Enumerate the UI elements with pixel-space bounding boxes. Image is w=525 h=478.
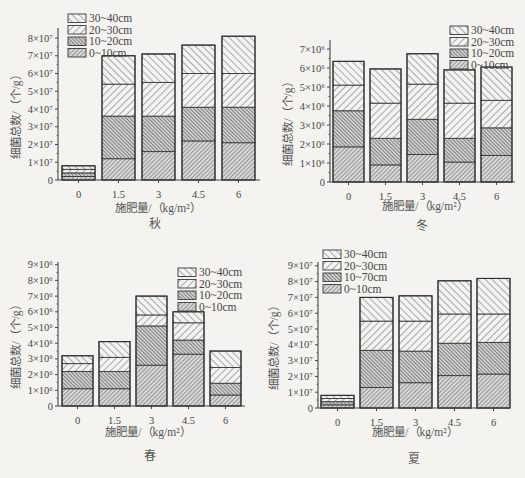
bar-segment <box>210 368 241 384</box>
bar-segment <box>370 138 401 165</box>
bar-segment <box>62 371 93 388</box>
legend-label: 20~30cm <box>344 260 387 272</box>
stacked-bar <box>62 166 95 180</box>
bar-segment <box>102 116 135 159</box>
y-tick-label: 4×10⁶ <box>300 101 326 112</box>
bar-segment <box>477 314 510 342</box>
x-tick-label: 3 <box>149 415 154 426</box>
stacked-bar <box>99 342 130 406</box>
bar-segment <box>222 107 255 143</box>
chart-panel-夏: 01.534.5601×10⁷2×10⁷3×10⁷4×10⁷5×10⁷6×10⁷… <box>267 248 510 466</box>
y-tick-label: 5×10⁶ <box>300 82 326 93</box>
x-axis-title: 施肥量/（kg/m²） <box>105 426 190 439</box>
x-axis-title: 施肥量/（kg/m²） <box>382 200 467 213</box>
panel-caption: 冬 <box>416 218 428 233</box>
bar-segment <box>481 155 512 182</box>
bar-segment <box>62 364 93 372</box>
legend-swatch <box>68 26 86 35</box>
bar-segment <box>438 343 471 375</box>
stacked-bar <box>136 296 167 406</box>
bar-segment <box>444 162 475 182</box>
x-tick-label: 1.5 <box>112 189 125 200</box>
legend-label: 10~20cm <box>89 35 132 47</box>
y-tick-label: 8×10⁷ <box>288 276 314 287</box>
legend: 30~40cm20~30cm10~20cm0~10cm <box>68 12 132 59</box>
bar-segment <box>102 159 135 180</box>
bar-segment <box>142 54 175 82</box>
bar-segment <box>333 111 364 147</box>
bar-segment <box>444 103 475 138</box>
bar-segment <box>222 143 255 180</box>
x-tick-label: 0 <box>76 189 81 200</box>
bar-segment <box>62 356 93 364</box>
bar-segment <box>407 119 438 154</box>
y-tick-label: 6×10⁶ <box>28 306 54 317</box>
bar-segment <box>182 141 215 180</box>
legend-swatch <box>178 303 196 312</box>
bar-segment <box>173 340 204 354</box>
y-tick-label: 9×10⁷ <box>288 260 314 271</box>
legend-label: 0~10cm <box>471 59 509 71</box>
bar-segment <box>360 297 393 321</box>
panel-caption: 春 <box>144 449 156 463</box>
legend-swatch <box>323 262 341 271</box>
bar-segment <box>438 314 471 343</box>
legend-swatch <box>323 250 341 259</box>
y-tick-label: 9×10⁶ <box>28 259 54 270</box>
stacked-bar <box>438 281 471 408</box>
y-tick-label: 3×10⁶ <box>28 353 54 364</box>
x-tick-label: 0 <box>75 415 80 426</box>
legend-swatch <box>450 49 468 58</box>
y-tick-label: 8×10⁷ <box>28 33 54 44</box>
bar-segment <box>370 69 401 103</box>
y-tick-label: 7×10⁷ <box>288 292 314 303</box>
legend-label: 20~30cm <box>199 278 242 290</box>
legend-label: 30~40cm <box>344 248 387 260</box>
x-tick-label: 1.5 <box>108 415 121 426</box>
bar-segment <box>182 107 215 141</box>
stacked-bar <box>481 67 512 182</box>
legend-label: 20~30cm <box>471 36 514 48</box>
y-tick-label: 7×10⁶ <box>28 291 54 302</box>
y-tick-label: 1×10⁷ <box>28 157 54 168</box>
chart-panel-秋: 01.534.5601×10⁷2×10⁷3×10⁷4×10⁷5×10⁷6×10⁷… <box>9 12 260 231</box>
legend-swatch <box>450 26 468 35</box>
y-tick-label: 3×10⁷ <box>288 355 314 366</box>
bar-segment <box>444 70 475 103</box>
bar-segment <box>444 138 475 162</box>
legend: 30~40cm20~30cm10~70cm0~10cm <box>323 248 387 295</box>
bar-segment <box>102 84 135 116</box>
bar-segment <box>173 354 204 406</box>
stacked-bar <box>477 278 510 408</box>
bar-segment <box>142 116 175 152</box>
legend-label: 20~30cm <box>89 24 132 36</box>
legend-label: 10~20cm <box>471 47 514 59</box>
legend-label: 30~40cm <box>471 24 514 36</box>
bar-segment <box>99 342 130 358</box>
legend-label: 0~10cm <box>199 301 237 313</box>
y-tick-label: 2×10⁷ <box>28 139 54 150</box>
chart-panel-春: 01.534.5601×10⁶2×10⁶3×10⁶4×10⁶5×10⁶6×10⁶… <box>9 259 245 463</box>
legend-swatch <box>68 37 86 46</box>
legend-label: 30~40cm <box>199 266 242 278</box>
bar-segment <box>210 395 241 406</box>
bar-segment <box>360 350 393 387</box>
x-tick-label: 0 <box>335 417 340 428</box>
y-tick-label: 5×10⁶ <box>28 322 54 333</box>
y-axis-title: 细菌总数/（个/g） <box>9 299 23 388</box>
stacked-bar <box>321 395 354 408</box>
y-axis-title: 细菌总数/（个/g） <box>267 300 281 389</box>
stacked-bar <box>399 296 432 408</box>
stacked-bar <box>370 69 401 182</box>
legend-swatch <box>178 291 196 300</box>
stacked-bar <box>102 56 135 180</box>
bar-segment <box>477 374 510 408</box>
x-tick-label: 6 <box>491 417 496 428</box>
y-tick-label: 6×10⁶ <box>300 63 326 74</box>
y-tick-label: 0 <box>48 175 53 186</box>
x-tick-label: 3 <box>156 189 161 200</box>
legend-swatch <box>450 38 468 47</box>
legend-swatch <box>68 49 86 58</box>
bar-segment <box>481 100 512 128</box>
bar-segment <box>173 323 204 340</box>
